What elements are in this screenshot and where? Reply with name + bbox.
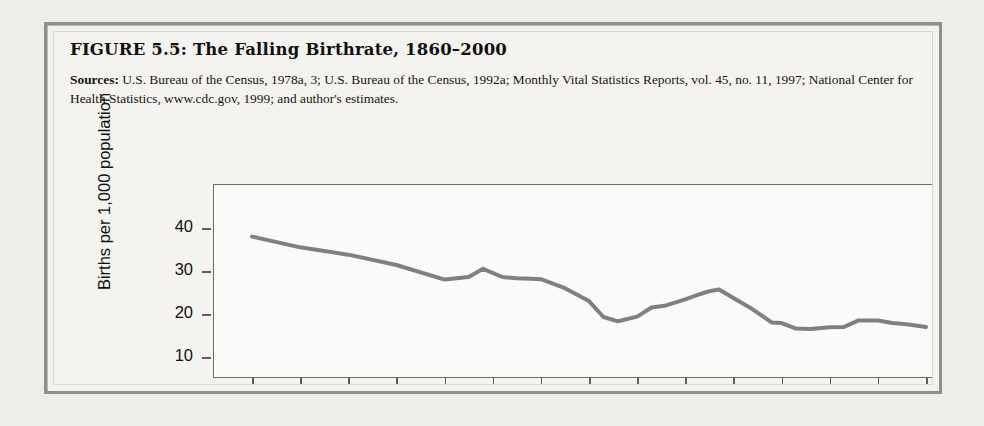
x-tick-mark-1900 (445, 378, 447, 385)
birthrate-data-line (252, 237, 926, 329)
y-tick-mark-20 (202, 314, 211, 316)
x-tick-mark-1880 (348, 378, 350, 385)
y-tick-mark-10 (202, 357, 211, 359)
x-tick-mark-1890 (396, 378, 398, 385)
x-tick-mark-1910 (493, 378, 495, 385)
birthrate-line-chart (213, 184, 933, 378)
y-tick-label-20: 20 (151, 303, 193, 322)
figure-frame: FIGURE 5.5: The Falling Birthrate, 1860–… (44, 22, 942, 394)
y-tick-label-10: 10 (151, 346, 193, 365)
y-tick-label-40: 40 (151, 217, 193, 236)
x-tick-mark-1870 (300, 378, 302, 385)
x-tick-mark-1860 (252, 378, 254, 385)
y-tick-mark-40 (202, 228, 211, 230)
x-tick-mark-2000 (926, 378, 928, 385)
x-tick-mark-1940 (637, 378, 639, 385)
chart-area: Births per 1,000 population 403020101860… (54, 32, 933, 385)
x-tick-mark-1980 (830, 378, 832, 385)
y-tick-label-30: 30 (151, 260, 193, 279)
x-tick-mark-1970 (782, 378, 784, 385)
figure-page: FIGURE 5.5: The Falling Birthrate, 1860–… (0, 0, 984, 426)
figure-inner-panel: FIGURE 5.5: The Falling Birthrate, 1860–… (53, 31, 933, 385)
x-tick-mark-1990 (878, 378, 880, 385)
x-tick-mark-1960 (733, 378, 735, 385)
y-axis-title: Births per 1,000 population (95, 82, 114, 302)
x-tick-mark-1920 (541, 378, 543, 385)
y-tick-mark-30 (202, 271, 211, 273)
x-tick-mark-1930 (589, 378, 591, 385)
x-tick-mark-1950 (685, 378, 687, 385)
